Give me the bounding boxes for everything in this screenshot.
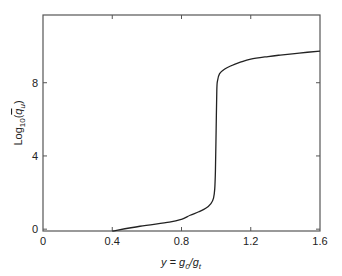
x-tick-label: 0.8: [174, 235, 189, 247]
y-axis-label: Log10(qu): [12, 100, 27, 145]
y-tick-label: 0: [32, 223, 38, 235]
plot-frame: [43, 15, 320, 231]
y-tick-label: 4: [32, 150, 38, 162]
x-axis-label: y = g0/gt: [160, 256, 202, 271]
series-line: [112, 51, 320, 231]
tick-labels: 00.40.81.21.6048: [32, 77, 328, 247]
ticks: [43, 15, 320, 231]
y-axis-label-group: Log10(qu): [12, 100, 27, 145]
x-tick-label: 0.4: [105, 235, 120, 247]
x-tick-label: 0: [40, 235, 46, 247]
y-tick-label: 8: [32, 77, 38, 89]
chart: 00.40.81.21.6048 y = g0/gt Log10(qu): [0, 0, 342, 276]
x-tick-label: 1.6: [312, 235, 327, 247]
x-tick-label: 1.2: [243, 235, 258, 247]
